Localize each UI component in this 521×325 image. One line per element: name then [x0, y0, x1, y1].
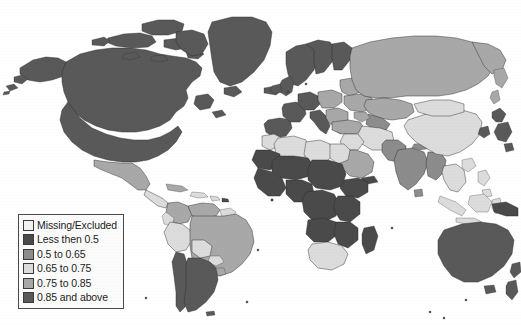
map-legend: Missing/Excluded Less then 0.5 0.5 to 0.… [18, 214, 124, 309]
legend-item-05-to-065: 0.5 to 0.65 [23, 247, 120, 262]
legend-label-075-to-085: 0.75 to 0.85 [37, 278, 91, 289]
legend-item-less-than-05: Less then 0.5 [23, 233, 120, 248]
legend-swatch-075-to-085 [23, 278, 34, 289]
legend-swatch-085-and-above [23, 292, 34, 303]
legend-swatch-missing-excluded [23, 220, 34, 231]
world-map-figure: .ld { fill:#4a4a4a; stroke:#2b2b2b; stro… [0, 0, 521, 325]
legend-swatch-less-than-05 [23, 234, 34, 245]
legend-label-065-to-075: 0.65 to 0.75 [37, 263, 91, 274]
legend-swatch-05-to-065 [23, 249, 34, 260]
legend-label-less-than-05: Less then 0.5 [37, 234, 99, 245]
legend-label-085-and-above: 0.85 and above [37, 292, 108, 303]
legend-label-05-to-065: 0.5 to 0.65 [37, 249, 86, 260]
legend-item-075-to-085: 0.75 to 0.85 [23, 276, 120, 291]
legend-item-missing-excluded: Missing/Excluded [23, 218, 120, 233]
legend-item-065-to-075: 0.65 to 0.75 [23, 262, 120, 277]
legend-label-missing-excluded: Missing/Excluded [37, 220, 117, 231]
legend-item-085-and-above: 0.85 and above [23, 291, 120, 306]
legend-swatch-065-to-075 [23, 263, 34, 274]
